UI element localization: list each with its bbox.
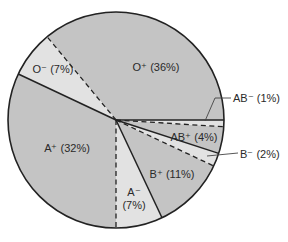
label-ab-negative: AB⁻ (1%) <box>233 92 280 104</box>
label-b-negative: B⁻ (2%) <box>240 148 280 160</box>
label-o-negative: O⁻ (7%) <box>33 63 74 75</box>
label-ab-positive: AB⁺ (4%) <box>171 131 218 143</box>
label-a-positive: A⁺ (32%) <box>44 142 90 154</box>
label-b-positive: B⁺ (11%) <box>150 168 195 180</box>
label-o-positive: O⁺ (36%) <box>133 61 180 73</box>
pie-chart: O⁺ (36%)O⁻ (7%)A⁺ (32%)A⁻(7%)B⁺ (11%)AB⁺… <box>0 0 288 242</box>
